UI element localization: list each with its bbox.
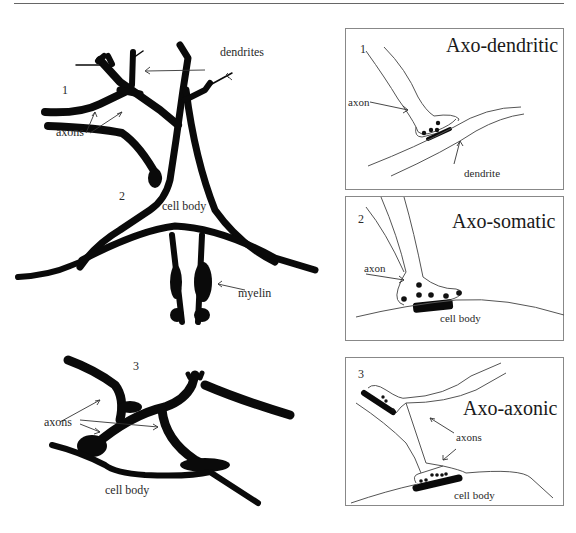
label-axons-b: axons bbox=[44, 416, 72, 428]
top-rule bbox=[14, 3, 564, 4]
panel-1-label-dendrite: dendrite bbox=[464, 168, 500, 179]
neuron-main-drawing bbox=[0, 30, 340, 330]
label-cell-body: cell body bbox=[162, 200, 206, 212]
panel-axo-axonic: 3 Axo-axonic axons cell body bbox=[345, 357, 564, 506]
panel-1-label-axon: axon bbox=[348, 97, 369, 108]
axo-dendritic-drawing bbox=[346, 29, 565, 191]
label-cell-body-b: cell body bbox=[105, 484, 149, 496]
panel-3-label-axons: axons bbox=[456, 432, 482, 443]
neuron-axo-axonic-drawing bbox=[0, 340, 320, 520]
panel-3-label-cell-body: cell body bbox=[454, 490, 495, 501]
panel-2-label-axon: axon bbox=[364, 263, 385, 274]
label-dendrites: dendrites bbox=[220, 46, 264, 58]
label-axons: axons bbox=[56, 126, 84, 138]
panel-axo-somatic: 2 Axo-somatic axon cell body bbox=[345, 196, 564, 341]
panel-2-label-cell-body: cell body bbox=[440, 313, 481, 324]
synapse-number-1: 1 bbox=[62, 84, 68, 96]
label-myelin: myelin bbox=[238, 287, 271, 299]
synapse-number-3: 3 bbox=[133, 360, 139, 372]
panel-axo-dendritic: 1 Axo-dendritic axon dendrite bbox=[345, 28, 564, 190]
synapse-number-2: 2 bbox=[119, 190, 125, 202]
